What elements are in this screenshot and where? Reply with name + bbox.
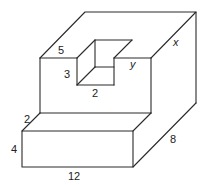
label-side-depth: 8 xyxy=(170,133,176,145)
notch-bottom-diagonal xyxy=(77,67,95,85)
label-notch-depth: 5 xyxy=(58,44,64,56)
label-x: x xyxy=(172,36,179,48)
notch-left-diagonal-top xyxy=(77,40,95,58)
label-step-depth: 2 xyxy=(24,113,30,125)
label-notch-width: 2 xyxy=(92,87,98,99)
label-front-length: 12 xyxy=(68,170,80,182)
label-lower-height: 4 xyxy=(11,143,17,155)
solid-figure: 5 3 2 y x 2 4 12 8 xyxy=(0,0,209,185)
label-notch-height: 3 xyxy=(64,68,70,80)
step-right-diagonal xyxy=(133,113,151,131)
notch-right-diagonal-top xyxy=(114,40,132,58)
lower-front-face xyxy=(22,131,133,167)
label-y: y xyxy=(129,58,137,70)
